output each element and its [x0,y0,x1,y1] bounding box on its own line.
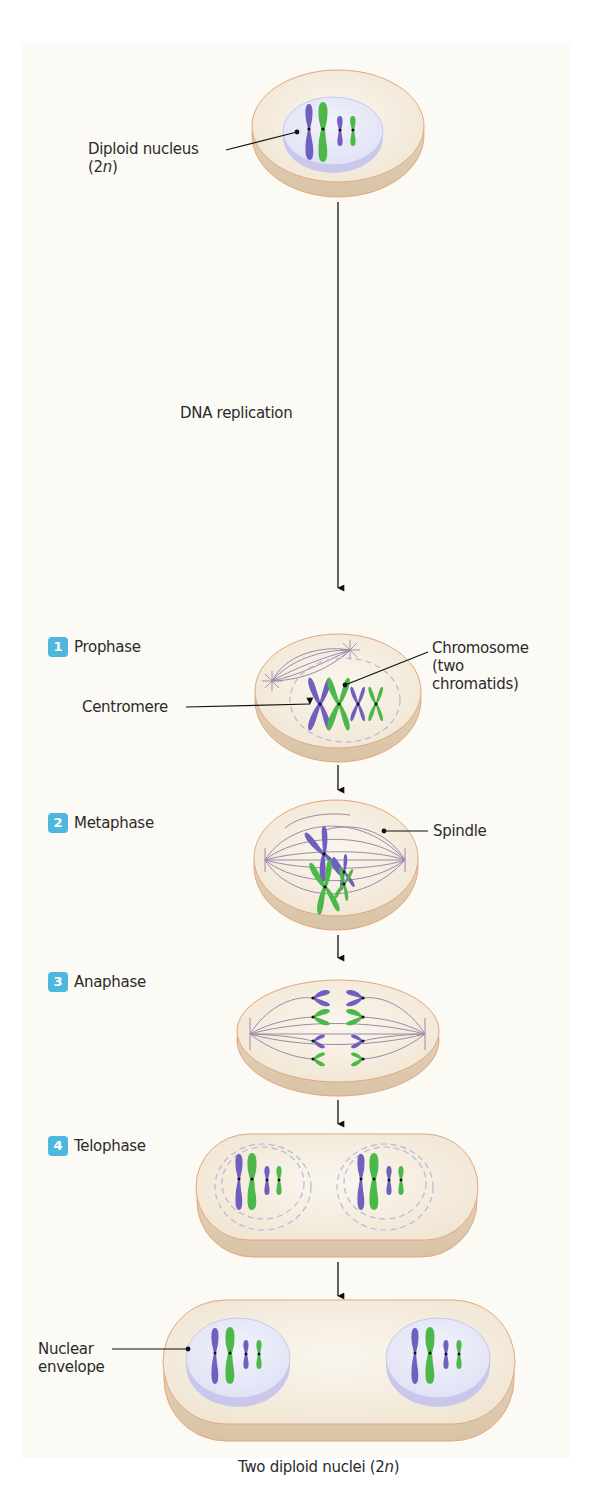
ploidy-label: (2n) [88,158,199,176]
step-name: Telophase [74,1136,146,1156]
mitosis-diagram [0,0,597,1489]
start-cell [226,70,424,197]
prophase-cell [186,634,428,762]
step-name: Metaphase [74,813,154,833]
centromere-label: Centromere [82,698,168,716]
step-name: Prophase [74,637,141,657]
spindle-label: Spindle [433,822,487,840]
nucleus [283,97,383,173]
result-label: Two diploid nuclei (2n) [238,1458,399,1476]
chromosome-label: Chromosome (two chromatids) [432,639,529,693]
anaphase-cell [237,980,439,1096]
step-number-badge: 3 [48,972,68,992]
result-cell [112,1300,515,1441]
nuclear-envelope-label: Nuclear envelope [38,1340,105,1376]
daughter-nucleus-left [186,1318,290,1407]
step-number-badge: 2 [48,813,68,833]
step-number-badge: 1 [48,637,68,657]
metaphase-cell [254,800,428,930]
step-name: Anaphase [74,972,146,992]
dna-replication-label: DNA replication [180,404,292,422]
daughter-nucleus-right [386,1318,490,1407]
diploid-nucleus-label: Diploid nucleus (2n) [88,140,199,176]
step-number-badge: 4 [48,1136,68,1156]
telophase-cell [196,1134,478,1257]
